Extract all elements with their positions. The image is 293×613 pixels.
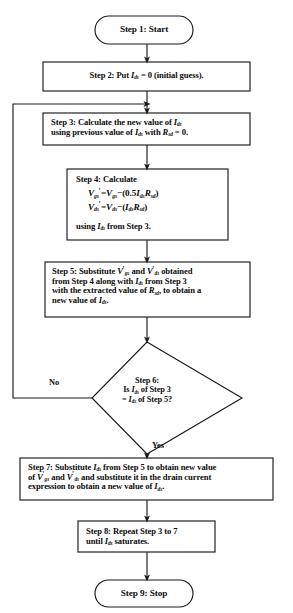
node-step4-footer: using Ids from Step 3. bbox=[76, 222, 224, 232]
node-step8-label: Step 8: Repeat Step 3 to 7 until Ids sat… bbox=[86, 527, 210, 546]
node-step9-label: Step 9: Stop bbox=[95, 588, 193, 598]
node-step4-heading: Step 4: Calculate bbox=[76, 174, 137, 184]
node-step5-label: Step 5: Substitute V'gs and V'ds obtaine… bbox=[52, 267, 246, 306]
node-step4-equation-1: Vgs'=Vgs−(0.5IdsRsd) bbox=[88, 188, 224, 199]
node-step6-label: Step 6: Is Ids of Step 3 = Ids of Step 5… bbox=[97, 376, 197, 404]
edge-label-no: No bbox=[49, 378, 59, 387]
node-step3-label: Step 3: Calculate the new value of Ids u… bbox=[51, 118, 243, 137]
node-step1-label: Step 1: Start bbox=[95, 24, 193, 34]
edge-label-yes: Yes bbox=[152, 441, 164, 450]
node-step7-label: Step 7: Substitute Ids from Step 5 to ob… bbox=[28, 463, 268, 492]
node-step4-equation-2: Vds'=Vds−(IdsRsd) bbox=[88, 202, 224, 213]
node-step4-label: Step 4: Calculate Vgs'=Vgs−(0.5IdsRsd) V… bbox=[76, 175, 224, 231]
flowchart-canvas bbox=[0, 0, 293, 613]
node-step2-label: Step 2: Put Ids = 0 (initial guess). bbox=[43, 71, 250, 81]
edge-feedback-no-loop bbox=[13, 104, 147, 398]
